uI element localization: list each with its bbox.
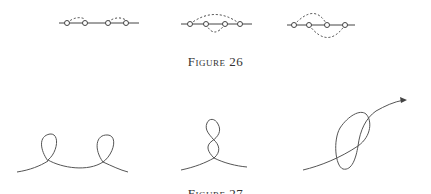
- figure-27-diagrams: [0, 0, 431, 194]
- double-loop-curve: [17, 134, 128, 172]
- figure-27-caption: Figure 27: [0, 186, 431, 194]
- figure-eight-curve: [181, 119, 247, 170]
- arrowhead-icon: [400, 97, 407, 103]
- self-crossing-arrow-curve: [303, 100, 404, 170]
- caption-text: Figure 27: [188, 186, 243, 194]
